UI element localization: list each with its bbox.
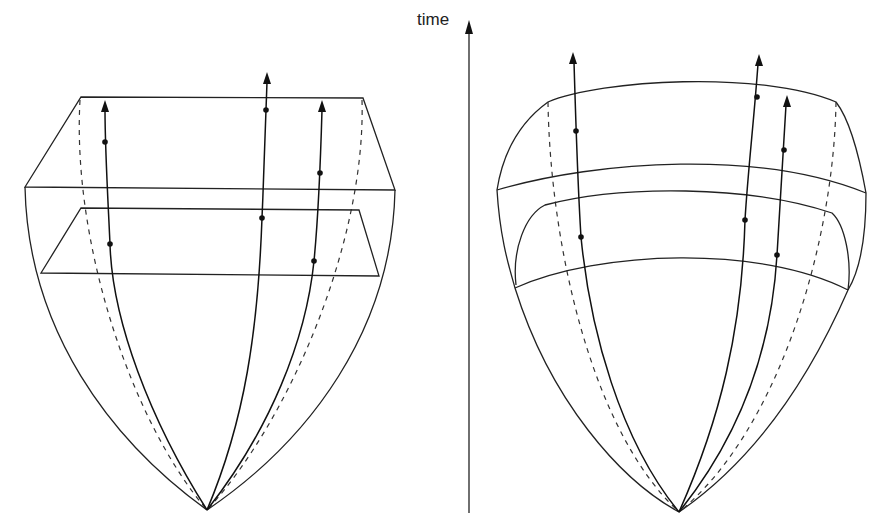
left-top-slice bbox=[25, 97, 395, 190]
left-lower-slice bbox=[41, 208, 379, 276]
right-cone-right-side bbox=[679, 193, 866, 512]
left-cone-left-side bbox=[25, 187, 207, 510]
left-cone-back-left-dashed bbox=[79, 100, 207, 510]
arrow-head-icon bbox=[263, 72, 271, 84]
event-point bbox=[107, 241, 113, 247]
arrow-head-icon bbox=[783, 95, 791, 107]
event-point bbox=[754, 94, 760, 100]
left-trajectory-1 bbox=[105, 110, 207, 510]
right-cone-back-left-dashed bbox=[548, 102, 679, 512]
left-trajectory-2 bbox=[207, 82, 267, 510]
diagram-canvas bbox=[0, 0, 887, 526]
event-point bbox=[102, 139, 108, 145]
right-cone-back-right-dashed bbox=[679, 102, 836, 512]
right-slice-2 bbox=[515, 191, 849, 290]
left-cone-back-right-dashed bbox=[207, 100, 362, 510]
time-axis bbox=[465, 20, 473, 513]
event-point bbox=[317, 170, 323, 176]
event-point bbox=[578, 234, 584, 240]
right-trajectory-2 bbox=[679, 64, 758, 512]
right-trajectory-3 bbox=[679, 105, 786, 512]
event-point bbox=[774, 252, 780, 258]
arrow-head-icon bbox=[755, 54, 763, 66]
event-point bbox=[259, 215, 265, 221]
event-point bbox=[781, 147, 787, 153]
right-figure bbox=[497, 52, 866, 512]
left-figure bbox=[25, 72, 395, 510]
right-trajectory-1 bbox=[574, 62, 679, 512]
event-point bbox=[311, 258, 317, 264]
event-point bbox=[573, 128, 579, 134]
arrow-head-icon bbox=[569, 52, 577, 64]
event-point bbox=[263, 107, 269, 113]
right-slice-1 bbox=[497, 164, 866, 193]
time-axis-arrow-icon bbox=[465, 20, 473, 34]
arrow-head-icon bbox=[318, 100, 326, 112]
left-cone-right-side bbox=[207, 190, 395, 510]
event-point bbox=[742, 217, 748, 223]
arrow-head-icon bbox=[101, 100, 109, 112]
